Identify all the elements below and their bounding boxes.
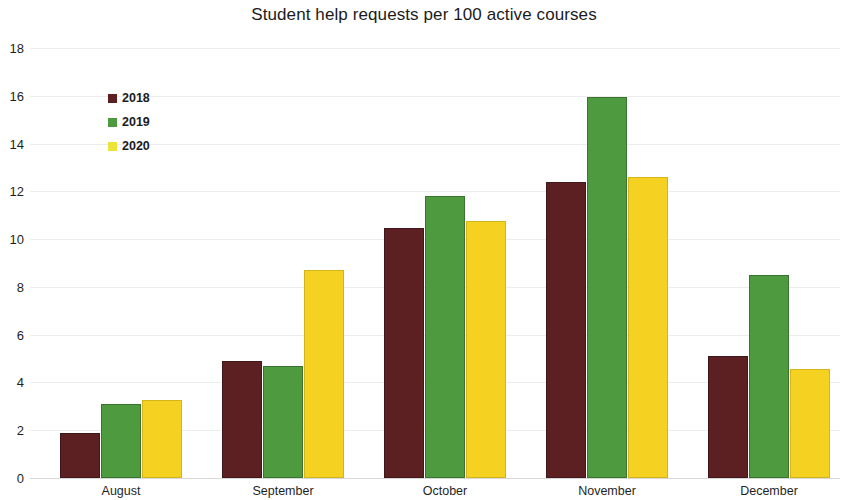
y-tick-label-0: 0 <box>0 471 24 486</box>
bar-chart: Student help requests per 100 active cou… <box>0 0 848 500</box>
y-tick-label-12: 12 <box>0 184 24 199</box>
x-tick-label-september: September <box>252 484 313 498</box>
legend-item-2019[interactable]: 2019 <box>108 116 150 128</box>
y-tick-label-4: 4 <box>0 375 24 390</box>
y-tick-label-16: 16 <box>0 88 24 103</box>
y-tick-label-10: 10 <box>0 232 24 247</box>
legend-swatch-icon-2018 <box>108 94 117 103</box>
y-tick-label-6: 6 <box>0 327 24 342</box>
x-tick-label-october: October <box>423 484 467 498</box>
y-tick-label-14: 14 <box>0 136 24 151</box>
y-tick-label-8: 8 <box>0 279 24 294</box>
legend-label-2020: 2020 <box>122 140 150 153</box>
x-tick-label-december: December <box>740 484 798 498</box>
y-axis-tick-labels: 024681012141618 <box>0 0 848 500</box>
legend-item-2020[interactable]: 2020 <box>108 140 150 152</box>
legend-swatch-icon-2019 <box>108 118 117 127</box>
legend: 201820192020 <box>108 92 150 152</box>
legend-item-2018[interactable]: 2018 <box>108 92 150 104</box>
legend-label-2018: 2018 <box>122 92 150 105</box>
y-tick-label-18: 18 <box>0 41 24 56</box>
y-tick-label-2: 2 <box>0 423 24 438</box>
legend-swatch-icon-2020 <box>108 142 117 151</box>
x-tick-label-august: August <box>102 484 141 498</box>
legend-label-2019: 2019 <box>122 116 150 129</box>
x-tick-label-november: November <box>578 484 636 498</box>
